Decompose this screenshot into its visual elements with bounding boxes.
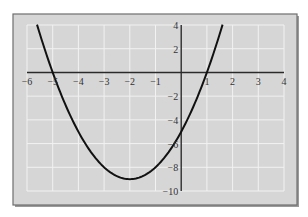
y-tick-label: −4 [168,115,179,126]
y-tick-label: −6 [168,139,179,150]
parabola-chart: −6−5−4−3−2−1123442−2−4−6−8−10 [0,0,308,217]
x-tick-label: −2 [124,76,135,87]
x-tick-label: 3 [256,76,261,87]
x-tick-label: −3 [99,76,110,87]
x-tick-label: 2 [230,76,235,87]
x-tick-label: 4 [282,76,287,87]
x-tick-label: −6 [22,76,33,87]
x-tick-label: −1 [150,76,161,87]
y-tick-label: 4 [173,20,178,31]
x-tick-label: −5 [47,76,58,87]
y-tick-label: 2 [173,44,178,55]
y-tick-label: −2 [168,91,179,102]
x-tick-label: −4 [73,76,84,87]
y-tick-label: −10 [163,186,179,197]
x-tick-label: 1 [204,76,209,87]
y-tick-label: −8 [168,162,179,173]
